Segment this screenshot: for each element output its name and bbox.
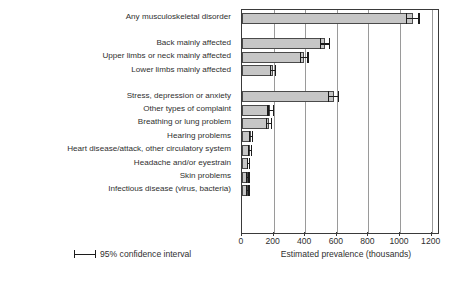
bar-row [242,91,438,102]
bar-row [242,13,438,24]
category-label: Heart disease/attack, other circulatory … [67,144,231,153]
bar [242,118,269,129]
error-bar-cap-low [249,131,250,142]
bar-row [242,185,438,196]
error-bar-cap-low [247,158,248,169]
tick-label-200: 200 [265,236,279,247]
bar [242,38,325,49]
category-label: Upper limbs or neck mainly affected [102,51,231,60]
x-axis-ticks: 020040060080010001200 [241,232,437,248]
bar-row [242,52,438,63]
error-bar-cap-high [273,105,274,116]
category-label: Lower limbs mainly affected [131,65,231,74]
bar-row [242,118,438,129]
category-label: Headache and/or eyestrain [134,158,231,167]
error-bar-cap-high [418,13,419,24]
error-bar-cap-low [246,172,247,183]
bar-row [242,38,438,49]
bar [242,91,334,102]
tick-label-800: 800 [360,236,374,247]
error-bar-cap-low [320,38,321,49]
error-bar-cap-high [252,131,253,142]
category-label: Infectious disease (virus, bacteria) [108,184,231,193]
error-bar-cap-high [251,145,252,156]
category-label: Other types of complaint [143,104,231,113]
tick-label-400: 400 [297,236,311,247]
bar-row [242,65,438,76]
bar [242,105,270,116]
error-bar-cap-low [270,65,271,76]
error-bar-cap-low [248,145,249,156]
legend-label-ci: 95% confidence interval [100,249,191,259]
error-bar-cap-low [246,185,247,196]
error-bar-cap-high [271,118,272,129]
bar [242,13,413,24]
category-label: Any musculoskeletal disorder [126,12,231,21]
bar-row [242,105,438,116]
category-label: Back mainly affected [156,38,231,47]
error-bar-cap-high [307,52,308,63]
error-bar-cap-high [329,38,330,49]
error-bar-icon [74,250,96,259]
error-bar-cap-high [248,172,249,183]
error-bar-cap-low [266,118,267,129]
bar [242,65,273,76]
error-bar-cap-high [248,185,249,196]
bar [242,52,304,63]
error-bar-cap-low [267,105,268,116]
x-axis-title: Estimated prevalence (thousands) [241,249,451,259]
legend: 95% confidence interval [74,249,191,259]
error-bar-line [406,18,419,19]
category-label: Hearing problems [167,131,231,140]
error-bar-cap-low [300,52,301,63]
bar-row [242,145,438,156]
bar-row [242,158,438,169]
error-bar-cap-high [249,158,250,169]
tick-label-0: 0 [239,236,244,247]
error-bar-cap-high [275,65,276,76]
tick-label-600: 600 [329,236,343,247]
category-label: Skin problems [180,171,231,180]
category-label-column: Any musculoskeletal disorderBack mainly … [0,0,234,232]
plot-area [241,9,439,234]
bar-row [242,131,438,142]
category-label: Breathing or lung problem [138,117,231,126]
bar-row [242,172,438,183]
category-label: Stress, depression or anxiety [127,91,231,100]
prevalence-bar-chart: Any musculoskeletal disorderBack mainly … [0,0,468,281]
error-bar-cap-low [328,91,329,102]
error-bar-cap-low [406,13,407,24]
tick-label-1000: 1000 [390,236,409,247]
error-bar-cap-high [338,91,339,102]
tick-label-1200: 1200 [421,236,440,247]
